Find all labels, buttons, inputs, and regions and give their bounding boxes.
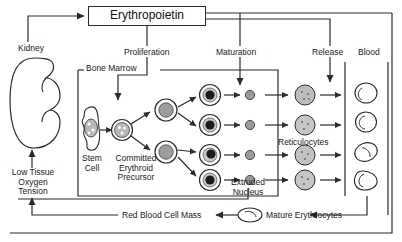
reticulocyte-2 — [295, 115, 315, 135]
epo-to-release-line — [206, 19, 330, 46]
blood-erythrocyte-3 — [352, 140, 380, 165]
maturation-label: Maturation — [216, 48, 256, 58]
blood-erythrocyte-1 — [355, 83, 377, 103]
blood-label: Blood — [358, 48, 380, 58]
nucleated-erythroblast-3 — [200, 145, 221, 166]
stem-cell-shape — [82, 107, 99, 150]
extruded-nucleus-label: Extruded Nucleus — [222, 178, 274, 197]
release-label: Release — [312, 48, 343, 58]
mature-erythrocyte-icon — [238, 208, 262, 222]
bone-marrow-label: Bone Marrow — [86, 64, 137, 74]
committed-to-intermediate-1-arrow — [131, 112, 150, 124]
low-tissue-oxygen-tension-label: Low Tissue Oxygen Tension — [2, 168, 64, 197]
rbcmass-to-hypoxia-arrow — [32, 198, 118, 215]
red-blood-cell-mass-label: Red Blood Cell Mass — [122, 211, 201, 221]
extruded-nucleus-1 — [245, 90, 254, 99]
extruded-nucleus-3 — [245, 150, 254, 159]
blood-erythrocyte-2 — [356, 112, 377, 132]
extruded-nucleus-2 — [245, 120, 254, 129]
intermediate1-to-eb1-arrow — [178, 97, 196, 107]
hypoxia-line-3: Tension — [2, 187, 64, 197]
reticulocyte-1 — [295, 85, 315, 105]
kidney-icon — [10, 58, 60, 148]
kidney-label: Kidney — [18, 44, 44, 54]
proliferation-label: Proliferation — [124, 48, 169, 58]
committed-erythroid-precursor-shape — [112, 120, 133, 141]
committed-to-intermediate-2-arrow — [131, 136, 150, 150]
intermediate1-to-eb2-arrow — [178, 113, 196, 126]
stem-cell-label: Stem Cell — [76, 154, 108, 173]
erythropoiesis-diagram: Erythropoietin Kidney Low Tissue Oxygen … — [0, 0, 402, 242]
mature-erythrocytes-label: Mature Erythrocytes — [266, 211, 342, 221]
extruded-nucleus-line-2: Nucleus — [222, 188, 274, 198]
reticulocyte-4 — [295, 170, 315, 190]
kidney-to-epo-arrow — [28, 16, 84, 42]
nucleated-erythroblast-1 — [200, 85, 221, 106]
stem-cell-line-2: Cell — [76, 164, 108, 174]
reticulocytes-label: Reticulocytes — [278, 138, 329, 148]
erythropoietin-label: Erythropoietin — [88, 8, 206, 22]
committed-erythroid-precursor-label: Committed Erythroid Precursor — [108, 154, 164, 183]
intermediate2-to-eb3-arrow — [178, 150, 196, 152]
blood-erythrocyte-4 — [354, 171, 377, 190]
intermediate-precursor-1 — [155, 99, 177, 121]
intermediate2-to-eb4-arrow — [178, 157, 196, 176]
diagram-canvas — [0, 0, 402, 242]
reticulocyte-3 — [295, 145, 315, 165]
nucleated-erythroblast-2 — [200, 115, 221, 136]
nucleated-erythroblast-4 — [200, 170, 221, 191]
cep-line-3: Precursor — [108, 173, 164, 183]
